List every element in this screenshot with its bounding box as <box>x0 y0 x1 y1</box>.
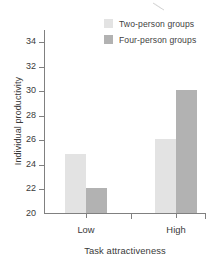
x-axis-tick-label: High <box>166 224 185 235</box>
bar <box>86 188 107 213</box>
y-axis-tick-mark <box>39 165 44 166</box>
legend-swatch-two-person <box>104 19 113 28</box>
legend-label-two-person: Two-person groups <box>119 19 194 29</box>
scan-smudge-icon <box>152 2 166 12</box>
x-axis-end-tick <box>205 214 206 219</box>
x-axis-title: Task attractiveness <box>44 245 206 256</box>
y-axis-tick-mark <box>39 42 44 43</box>
y-axis-title: Individual productivity <box>13 56 23 186</box>
y-axis-tick-mark <box>39 116 44 117</box>
bar-chart: Two-person groups Four-person groups Ind… <box>0 0 222 269</box>
y-axis-tick-label: 28 <box>26 110 36 120</box>
y-axis-tick-label: 26 <box>26 134 36 144</box>
y-axis-tick-mark <box>39 67 44 68</box>
y-axis-tick-mark <box>39 91 44 92</box>
bar <box>155 139 176 213</box>
y-axis-tick-label: 32 <box>26 61 36 71</box>
y-axis-tick-mark <box>39 189 44 190</box>
bar <box>65 154 86 213</box>
x-axis-tick-mark <box>86 214 87 218</box>
y-axis-line <box>44 30 45 214</box>
y-axis-tick-label: 30 <box>26 85 36 95</box>
bar <box>176 90 197 213</box>
x-axis-minor-tick <box>131 214 132 219</box>
y-axis-tick-label: 34 <box>26 36 36 46</box>
plot-area: 2224262830323420LowHigh <box>44 30 206 214</box>
y-axis-tick-label: 22 <box>26 183 36 193</box>
legend-item-two-person: Two-person groups <box>104 17 220 30</box>
x-axis-line <box>44 213 206 214</box>
y-axis-origin-label: 20 <box>26 208 36 218</box>
x-axis-tick-mark <box>176 214 177 218</box>
y-axis-tick-mark <box>39 140 44 141</box>
x-axis-tick-label: Low <box>77 224 94 235</box>
y-axis-tick-label: 24 <box>26 159 36 169</box>
